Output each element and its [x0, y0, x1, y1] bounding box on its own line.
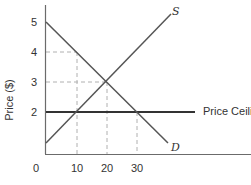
- y-tick-4: 4: [31, 46, 37, 58]
- x-tick-10: 10: [71, 162, 83, 174]
- y-tick-5: 5: [31, 16, 37, 28]
- price-ceiling-label: Price Ceiling: [203, 105, 251, 117]
- x-tick-30: 30: [131, 162, 143, 174]
- x-tick-0: 0: [33, 162, 39, 174]
- x-tick-20: 20: [101, 162, 113, 174]
- supply-demand-chart: 5 4 3 2 0 10 20 30 Price ($) S D Price C…: [0, 0, 251, 185]
- supply-label: S: [172, 5, 180, 18]
- supply-curve: [46, 14, 171, 143]
- y-axis-label: Price ($): [3, 79, 15, 121]
- demand-label: D: [170, 141, 180, 154]
- y-tick-3: 3: [31, 76, 37, 88]
- y-tick-2: 2: [31, 106, 37, 118]
